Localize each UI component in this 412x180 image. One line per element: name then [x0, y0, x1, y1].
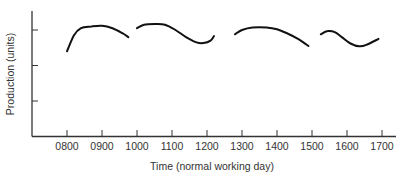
series-lines — [67, 24, 379, 51]
x-tick-label: 1000 — [125, 140, 149, 152]
x-tick-label: 1300 — [230, 140, 254, 152]
y-ticks — [32, 30, 38, 101]
production-curve — [321, 31, 379, 46]
production-chart: 0800090010001100120013001400150016001700… — [0, 0, 412, 180]
x-tick-label: 0800 — [55, 140, 79, 152]
axes — [32, 11, 396, 137]
x-tick-label: 0900 — [90, 140, 114, 152]
x-tick-label: 1500 — [300, 140, 324, 152]
x-tick-label: 1700 — [370, 140, 394, 152]
x-axis-title: Time (normal working day) — [150, 160, 274, 172]
production-curve — [235, 27, 309, 46]
x-tick-label: 1200 — [195, 140, 219, 152]
x-tick-label: 1600 — [335, 140, 359, 152]
y-axis-title: Production (units) — [4, 33, 16, 115]
x-tick-label: 1100 — [161, 140, 184, 152]
x-ticks: 0800090010001100120013001400150016001700 — [55, 130, 394, 152]
x-tick-label: 1400 — [265, 140, 289, 152]
production-curve — [137, 24, 214, 43]
production-curve — [67, 26, 128, 52]
